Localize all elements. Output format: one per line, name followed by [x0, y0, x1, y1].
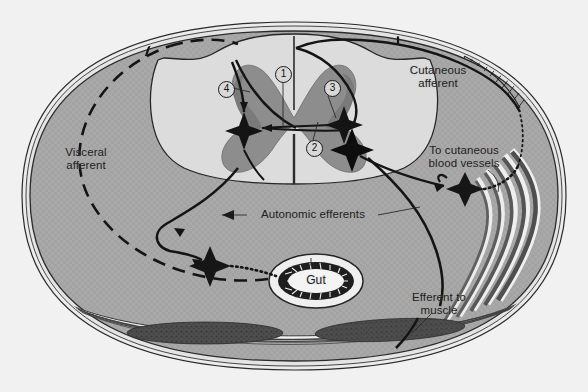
label-cutaneous-afferent: Cutaneous afferent — [392, 64, 484, 90]
body-cross-section-diagram — [0, 0, 588, 392]
muscle-belly-left — [127, 322, 283, 344]
label-gut: Gut — [296, 274, 336, 287]
marker-3: 3 — [324, 80, 341, 97]
marker-4: 4 — [218, 81, 235, 98]
label-autonomic-efferents: Autonomic efferents — [248, 208, 378, 221]
marker-1: 1 — [275, 66, 292, 83]
label-efferent-to-muscle: Efferent to muscle — [392, 291, 486, 317]
label-visceral-afferent: Visceral afferent — [44, 146, 128, 172]
label-to-cutaneous-blood-vessels: To cutaneous blood vessels — [412, 144, 516, 170]
marker-2: 2 — [306, 140, 323, 157]
anatomical-figure: Visceral afferent Cutaneous afferent To … — [0, 0, 588, 392]
